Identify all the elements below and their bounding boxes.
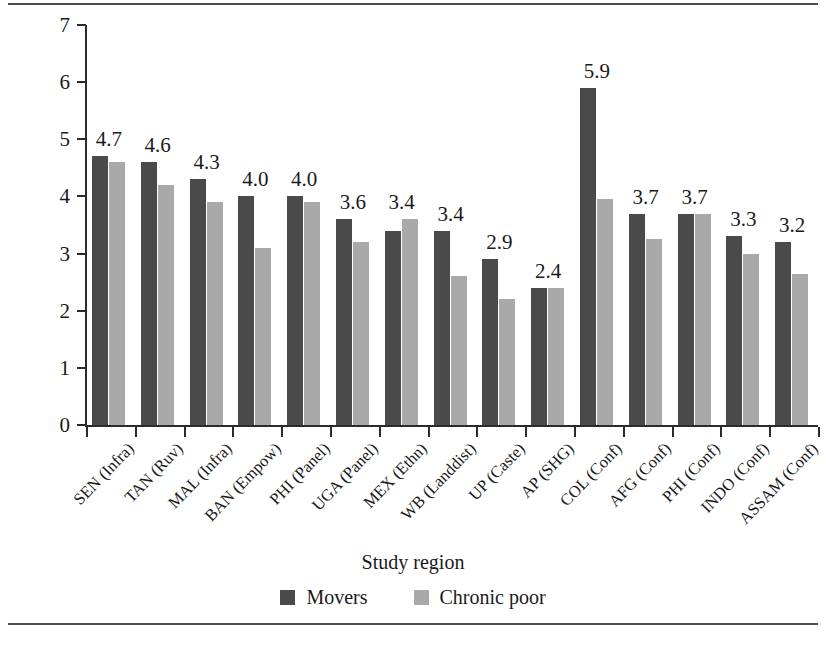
- bar-group[interactable]: 4.6: [141, 25, 174, 425]
- x-tick-mark: [428, 427, 430, 437]
- bar-value-label: 3.7: [681, 187, 707, 208]
- bar-value-label: 3.4: [437, 204, 463, 225]
- bar-group[interactable]: 3.3: [726, 25, 759, 425]
- bar-chronic-poor[interactable]: [353, 242, 369, 425]
- bar-group[interactable]: 2.4: [531, 25, 564, 425]
- y-tick-label: 6: [60, 72, 71, 93]
- y-tick-label: 2: [60, 300, 71, 321]
- bar-chronic-poor[interactable]: [499, 299, 515, 425]
- bar-movers[interactable]: [92, 156, 108, 425]
- legend-item[interactable]: Movers: [280, 586, 367, 609]
- bar-value-label: 4.3: [193, 152, 219, 173]
- bar-value-label: 4.6: [145, 135, 171, 156]
- legend-swatch-icon: [414, 590, 429, 605]
- bar-value-label: 4.0: [291, 169, 317, 190]
- bar-chronic-poor[interactable]: [304, 202, 320, 425]
- bar-group[interactable]: 3.4: [385, 25, 418, 425]
- y-axis-line: [85, 25, 87, 425]
- bar-group[interactable]: 5.9: [580, 25, 613, 425]
- x-tick-mark: [379, 427, 381, 437]
- bar-movers[interactable]: [580, 88, 596, 425]
- bar-movers[interactable]: [775, 242, 791, 425]
- x-tick-mark: [623, 427, 625, 437]
- bar-group[interactable]: 4.7: [92, 25, 125, 425]
- bar-chronic-poor[interactable]: [646, 239, 662, 425]
- figure-bar-chart: Average step on ladder of power and righ…: [0, 0, 826, 647]
- bar-value-label: 4.0: [242, 169, 268, 190]
- bar-chronic-poor[interactable]: [207, 202, 223, 425]
- x-tick-mark: [232, 427, 234, 437]
- bar-movers[interactable]: [141, 162, 157, 425]
- x-axis-title: Study region: [0, 551, 826, 574]
- bar-chronic-poor[interactable]: [548, 288, 564, 425]
- bar-chronic-poor[interactable]: [695, 214, 711, 425]
- bar-group[interactable]: 4.0: [287, 25, 320, 425]
- bar-chronic-poor[interactable]: [402, 219, 418, 425]
- x-tick-mark: [184, 427, 186, 437]
- x-tick-mark: [720, 427, 722, 437]
- bar-movers[interactable]: [678, 214, 694, 425]
- bar-value-label: 3.7: [633, 187, 659, 208]
- bar-value-label: 2.4: [535, 261, 561, 282]
- plot-area: 01234567 4.74.64.34.04.03.63.43.42.92.45…: [86, 25, 818, 425]
- top-divider-rule: [8, 3, 818, 5]
- legend-item[interactable]: Chronic poor: [414, 586, 546, 609]
- y-tick-label: 5: [60, 129, 71, 150]
- y-tick-mark: [77, 195, 86, 197]
- bar-value-label: 3.2: [779, 215, 805, 236]
- bar-movers[interactable]: [726, 236, 742, 425]
- x-axis-line: [85, 425, 818, 427]
- bar-movers[interactable]: [385, 231, 401, 425]
- bar-value-label: 3.6: [340, 192, 366, 213]
- bar-movers[interactable]: [629, 214, 645, 425]
- bar-value-label: 4.7: [96, 129, 122, 150]
- bar-group[interactable]: 2.9: [482, 25, 515, 425]
- x-tick-mark: [135, 427, 137, 437]
- bar-movers[interactable]: [336, 219, 352, 425]
- bar-value-label: 3.3: [730, 209, 756, 230]
- bar-movers[interactable]: [482, 259, 498, 425]
- x-tick-mark: [281, 427, 283, 437]
- bar-chronic-poor[interactable]: [255, 248, 271, 425]
- y-tick-label: 3: [60, 243, 71, 264]
- legend-label: Chronic poor: [440, 586, 546, 609]
- y-tick-label: 7: [60, 15, 71, 36]
- x-tick-mark: [769, 427, 771, 437]
- y-tick-mark: [77, 81, 86, 83]
- bar-chronic-poor[interactable]: [158, 185, 174, 425]
- y-tick-mark: [77, 253, 86, 255]
- bar-group[interactable]: 3.7: [678, 25, 711, 425]
- bar-movers[interactable]: [190, 179, 206, 425]
- bar-group[interactable]: 3.2: [775, 25, 808, 425]
- bar-chronic-poor[interactable]: [109, 162, 125, 425]
- x-tick-mark: [330, 427, 332, 437]
- y-tick-mark: [77, 24, 86, 26]
- y-tick-label: 0: [60, 415, 71, 436]
- x-tick-mark: [818, 427, 820, 437]
- bar-value-label: 2.9: [486, 232, 512, 253]
- x-tick-mark: [476, 427, 478, 437]
- y-tick-label: 4: [60, 186, 71, 207]
- bottom-divider-rule: [8, 623, 818, 625]
- x-tick-mark: [525, 427, 527, 437]
- bar-movers[interactable]: [238, 196, 254, 425]
- bar-movers[interactable]: [434, 231, 450, 425]
- bar-chronic-poor[interactable]: [792, 274, 808, 425]
- bar-chronic-poor[interactable]: [597, 199, 613, 425]
- bar-group[interactable]: 4.0: [238, 25, 271, 425]
- bar-group[interactable]: 3.4: [434, 25, 467, 425]
- x-tick-mark: [86, 427, 88, 437]
- y-tick-mark: [77, 367, 86, 369]
- bar-movers[interactable]: [287, 196, 303, 425]
- y-tick-mark: [77, 424, 86, 426]
- bar-chronic-poor[interactable]: [743, 254, 759, 425]
- bar-group[interactable]: 3.6: [336, 25, 369, 425]
- legend-label: Movers: [306, 586, 367, 609]
- bar-movers[interactable]: [531, 288, 547, 425]
- bar-group[interactable]: 4.3: [190, 25, 223, 425]
- bar-value-label: 3.4: [389, 192, 415, 213]
- bar-chronic-poor[interactable]: [451, 276, 467, 425]
- y-tick-label: 1: [60, 357, 71, 378]
- bar-group[interactable]: 3.7: [629, 25, 662, 425]
- y-tick-mark: [77, 310, 86, 312]
